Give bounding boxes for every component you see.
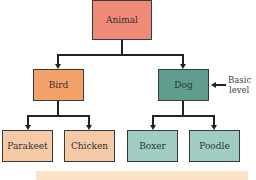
node-animal: Animal xyxy=(92,0,152,40)
node-animal-label: Animal xyxy=(106,15,138,25)
node-dog-label: Dog xyxy=(174,80,192,90)
connector xyxy=(121,40,123,55)
node-dog: Dog xyxy=(158,69,209,101)
connector xyxy=(182,101,184,116)
node-chicken: Chicken xyxy=(64,130,115,162)
basic-level-annotation: Basic level xyxy=(228,75,251,95)
connector xyxy=(152,115,215,117)
node-parakeet: Parakeet xyxy=(2,130,53,162)
node-bird: Bird xyxy=(33,69,84,101)
connector xyxy=(57,101,59,116)
caption-bar xyxy=(36,171,248,180)
node-bird-label: Bird xyxy=(49,80,69,90)
connector xyxy=(215,84,226,86)
connector xyxy=(57,54,184,56)
connector xyxy=(27,115,90,117)
node-poodle: Poodle xyxy=(189,130,240,162)
node-boxer: Boxer xyxy=(127,130,178,162)
